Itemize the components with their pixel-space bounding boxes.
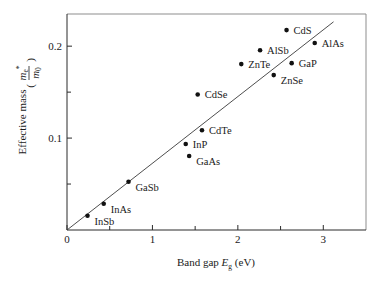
data-point (101, 202, 106, 207)
x-tick-label: 2 (235, 233, 241, 245)
y-axis-title: Effective mass (16, 90, 28, 155)
svg-text:me*: me* (15, 65, 30, 80)
svg-text:m0: m0 (29, 67, 43, 79)
x-tick-label: 0 (64, 233, 70, 245)
data-point (271, 73, 276, 78)
data-point (85, 213, 90, 218)
data-points (85, 28, 317, 218)
data-point-labels: InSbInAsGaSbGaAsInPCdTeCdSeZnSeZnTeGaPAl… (95, 25, 344, 227)
figure-container: 01230.10.2 InSbInAsGaSbGaAsInPCdTeCdSeZn… (0, 0, 389, 281)
svg-text:Effective mass: Effective mass (16, 90, 28, 155)
svg-text:(: ( (24, 84, 37, 88)
data-point-label: InAs (111, 204, 131, 215)
data-point (195, 92, 200, 97)
x-axis-title: Band gap Eg (eV) (177, 256, 255, 271)
data-point-label: CdTe (209, 125, 232, 136)
y-tick-label: 0.1 (48, 132, 62, 144)
trend-line (67, 22, 334, 230)
x-tick-label: 3 (321, 233, 327, 245)
data-point-label: ZnTe (248, 59, 270, 70)
data-point-label: AlSb (267, 45, 289, 56)
data-point (258, 48, 263, 53)
data-point (284, 28, 289, 33)
data-point (200, 128, 205, 133)
x-title-text: Band gap (177, 256, 222, 268)
svg-text:Band gap Eg (eV): Band gap Eg (eV) (177, 256, 255, 271)
svg-text:): ) (24, 58, 37, 62)
data-point-label: InSb (95, 216, 115, 227)
data-point-label: AlAs (322, 38, 344, 49)
data-point (187, 154, 192, 159)
y-title-text: Effective mass (16, 90, 28, 155)
data-point-label: GaAs (196, 156, 220, 167)
x-tick-label: 1 (150, 233, 156, 245)
data-point-label: ZnSe (281, 75, 304, 86)
y-axis-fraction-group: me* m0 ( ) (15, 58, 43, 88)
x-title-units: (eV) (232, 256, 255, 269)
data-point-label: CdS (294, 25, 312, 36)
data-point-label: GaP (299, 58, 317, 69)
scatter-plot: 01230.10.2 InSbInAsGaSbGaAsInPCdTeCdSeZn… (0, 0, 389, 281)
data-point (126, 179, 131, 184)
y-tick-label: 0.2 (48, 40, 62, 52)
data-point (183, 142, 188, 147)
trend-line-segment (67, 22, 334, 230)
data-point-label: InP (193, 139, 208, 150)
data-point-label: CdSe (205, 89, 228, 100)
data-point (239, 62, 244, 67)
data-point (289, 61, 294, 66)
data-point (312, 41, 317, 46)
data-point-label: GaSb (136, 182, 159, 193)
